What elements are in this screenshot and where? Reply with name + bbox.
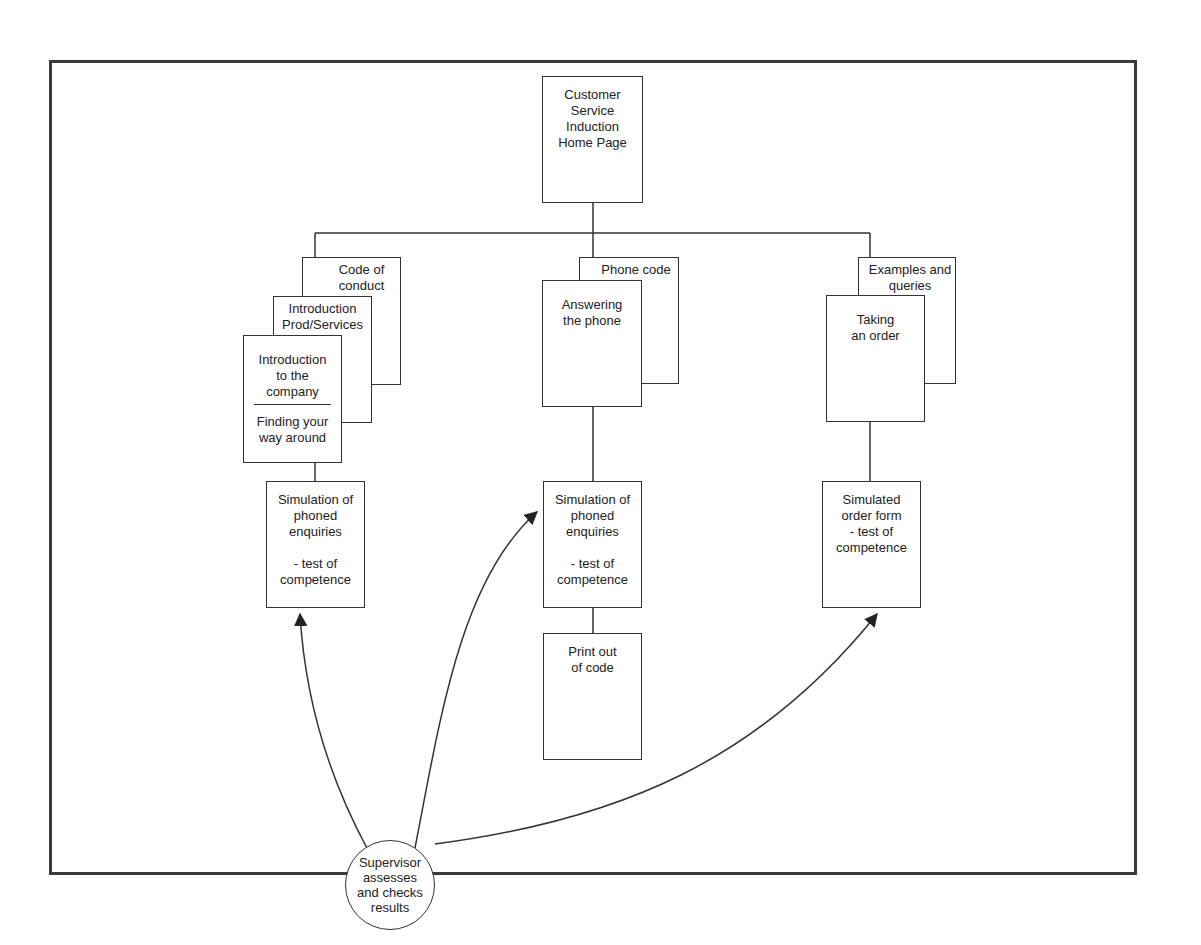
printout-box: Print out of code (543, 633, 642, 760)
examples-queries-label: Examples and queries (859, 258, 955, 294)
home-page-box: Customer Service Induction Home Page (542, 76, 643, 203)
finding-way-label: Finding your way around (244, 400, 341, 446)
left-test-box: Simulation of phoned enquiries - test of… (266, 481, 365, 608)
section-divider (254, 404, 331, 405)
supervisor-node: Supervisor assesses and checks results (345, 840, 435, 930)
taking-order-box: Taking an order (826, 295, 925, 422)
center-test-label: Simulation of phoned enquiries - test of… (544, 482, 641, 588)
left-test-label: Simulation of phoned enquiries - test of… (267, 482, 364, 588)
printout-label: Print out of code (544, 634, 641, 676)
home-page-label: Customer Service Induction Home Page (543, 77, 642, 151)
intro-prod-services-label: Introduction Prod/Services (274, 297, 371, 333)
intro-company-box: Introduction to the company Finding your… (243, 335, 342, 463)
answering-phone-box: Answering the phone (542, 280, 642, 407)
right-test-label: Simulated order form - test of competenc… (823, 482, 920, 556)
right-test-box: Simulated order form - test of competenc… (822, 481, 921, 608)
answering-phone-label: Answering the phone (543, 281, 641, 329)
supervisor-label: Supervisor assesses and checks results (357, 855, 423, 915)
center-test-box: Simulation of phoned enquiries - test of… (543, 481, 642, 608)
intro-company-label: Introduction to the company (244, 336, 341, 400)
code-of-conduct-label: Code of conduct (303, 258, 400, 294)
phone-code-label: Phone code (580, 258, 678, 278)
taking-order-label: Taking an order (827, 296, 924, 344)
